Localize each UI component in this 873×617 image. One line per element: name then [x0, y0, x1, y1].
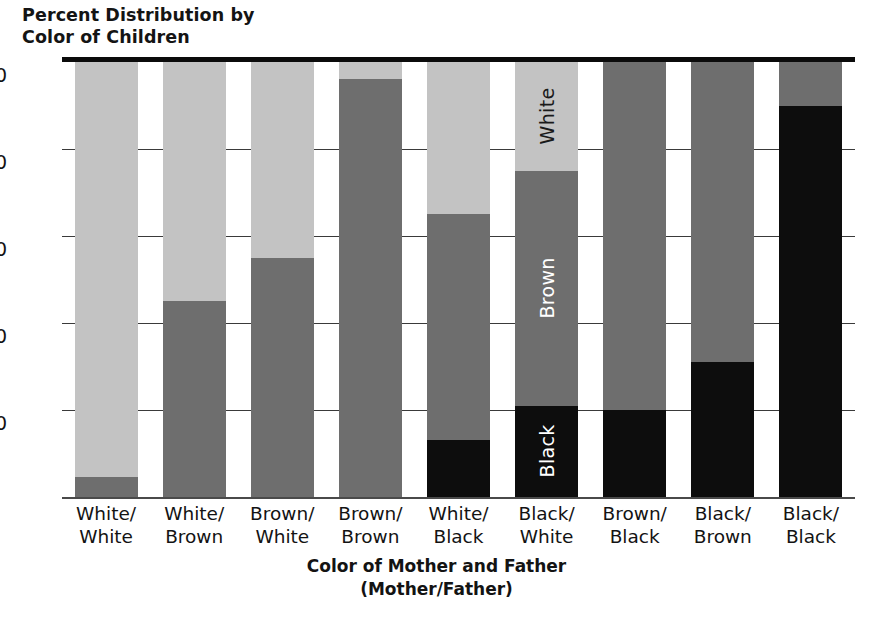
x-tick-label: White/ Black: [414, 503, 502, 548]
bar-group: [691, 62, 754, 497]
bar-group: [75, 62, 138, 497]
bar-stack: [779, 62, 842, 497]
bar-segment-white: White: [515, 62, 578, 171]
bar-segment-brown: [75, 477, 138, 497]
x-axis-title: Color of Mother and Father (Mother/Fathe…: [0, 555, 873, 600]
bar-segment-black: [779, 106, 842, 498]
bar-segment-brown: [691, 62, 754, 362]
bar-segment-brown: Brown: [515, 171, 578, 406]
bar-group: [251, 62, 314, 497]
bar-stack: [691, 62, 754, 497]
bar-segment-white: [427, 62, 490, 214]
bar-segment-brown: [779, 62, 842, 106]
bars-container: BlackBrownWhite: [62, 62, 855, 497]
axis-baseline: [62, 497, 855, 499]
bar-segment-white: [163, 62, 226, 301]
bar-segment-black: [427, 440, 490, 497]
bar-group: [339, 62, 402, 497]
bar-group: BlackBrownWhite: [515, 62, 578, 497]
plot-area: BlackBrownWhite: [62, 62, 855, 497]
bar-segment-brown: [603, 62, 666, 410]
bar-segment-brown: [163, 301, 226, 497]
bar-segment-white: [75, 62, 138, 477]
bar-segment-brown: [339, 79, 402, 497]
bar-stack: [603, 62, 666, 497]
bar-group: [779, 62, 842, 497]
bar-stack: [163, 62, 226, 497]
bar-group: [603, 62, 666, 497]
bar-segment-white: [339, 62, 402, 79]
bar-segment-black: [603, 410, 666, 497]
y-tick-label-20: 20: [0, 414, 7, 433]
bar-group: [163, 62, 226, 497]
bar-stack: [251, 62, 314, 497]
bar-segment-black: Black: [515, 406, 578, 497]
segment-label-brown: Brown: [536, 258, 558, 319]
segment-label-white: White: [536, 88, 558, 145]
y-tick-label-100: 100: [0, 66, 7, 85]
y-tick-label-40: 40: [0, 327, 7, 346]
bar-segment-black: [691, 362, 754, 497]
x-tick-label: Brown/ Black: [591, 503, 679, 548]
y-tick-label-60: 60: [0, 240, 7, 259]
x-tick-label: White/ White: [62, 503, 150, 548]
chart-title: Percent Distribution by Color of Childre…: [22, 4, 542, 49]
y-tick-label-80: 80: [0, 153, 7, 172]
bar-segment-white: [251, 62, 314, 258]
bar-stack: [339, 62, 402, 497]
bar-stack: [427, 62, 490, 497]
x-tick-label: Black/ Brown: [679, 503, 767, 548]
segment-label-black: Black: [536, 425, 558, 478]
x-tick-label: Black/ Black: [767, 503, 855, 548]
bar-segment-brown: [427, 214, 490, 440]
x-tick-label: White/ Brown: [150, 503, 238, 548]
bar-stack: [75, 62, 138, 497]
x-tick-label: Black/ White: [503, 503, 591, 548]
bar-stack: BlackBrownWhite: [515, 62, 578, 497]
bar-segment-brown: [251, 258, 314, 497]
x-tick-label: Brown/ White: [238, 503, 326, 548]
x-tick-label: Brown/ Brown: [326, 503, 414, 548]
chart-figure: Percent Distribution by Color of Childre…: [0, 0, 873, 617]
bar-group: [427, 62, 490, 497]
